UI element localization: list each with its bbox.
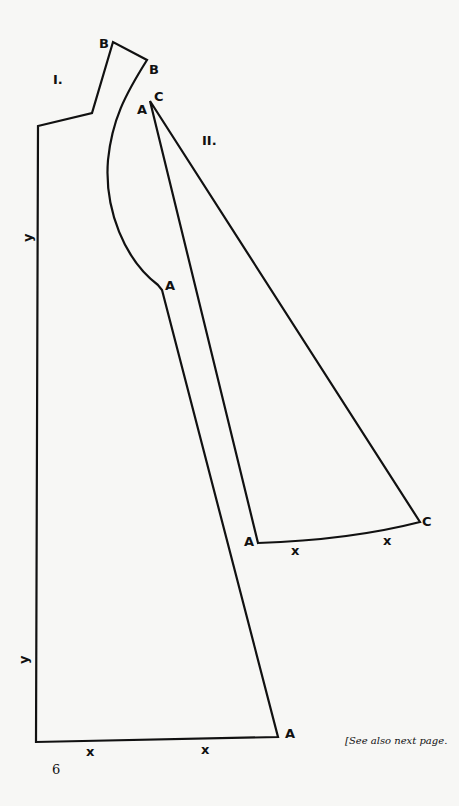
- point-a-bottom: A: [285, 726, 295, 741]
- page-number: 6: [52, 762, 60, 777]
- piece-2-label: II.: [202, 133, 217, 148]
- mark-y: y: [16, 655, 31, 664]
- mark-x: x: [86, 744, 95, 759]
- footnote: [See also next page.: [345, 735, 447, 746]
- point-a-top: A: [137, 102, 147, 117]
- point-c-top: C: [154, 89, 164, 104]
- point-a-mid: A: [165, 278, 175, 293]
- piece-1-label: I.: [53, 72, 63, 87]
- point-b-lower: B: [149, 62, 159, 77]
- mark-x: x: [291, 543, 300, 558]
- piece-1-outline: [36, 42, 278, 742]
- point-b-upper: B: [99, 36, 109, 51]
- point-a-piece2: A: [244, 534, 254, 549]
- mark-x: x: [383, 533, 392, 548]
- pattern-diagram: I. II. B B C A A A C A x x x x y y 6 [Se…: [0, 0, 459, 806]
- piece-2-outline: [150, 101, 420, 543]
- point-c-piece2: C: [422, 514, 432, 529]
- mark-x: x: [201, 742, 210, 757]
- mark-y: y: [20, 233, 35, 242]
